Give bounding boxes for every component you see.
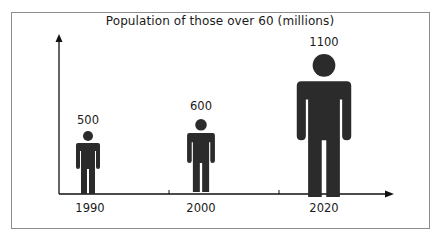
x-tick-2020: 2020	[299, 201, 349, 215]
person-icon-2000	[187, 119, 215, 192]
data-label-2020: 1100	[299, 35, 349, 49]
data-label-2000: 600	[176, 99, 226, 113]
x-tick-2000: 2000	[176, 201, 226, 215]
y-axis	[56, 34, 63, 194]
x-axis	[59, 190, 394, 198]
data-label-1990: 500	[63, 113, 113, 127]
person-icon-1990	[76, 131, 100, 194]
x-tick-1990: 1990	[65, 201, 115, 215]
person-icon-2020	[297, 54, 351, 197]
